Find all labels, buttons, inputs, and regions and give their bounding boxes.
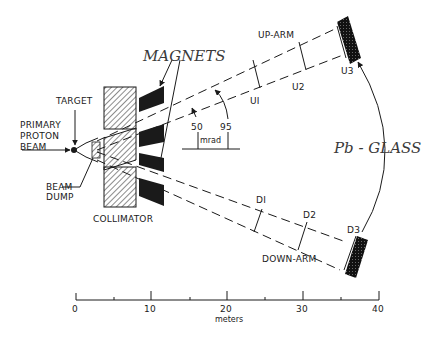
scale-unit-label: meters [215,315,243,324]
chamber-u2-label: U2 [292,82,305,92]
beam-dump-label-2: DUMP [46,192,74,202]
target-label: TARGET [55,96,93,106]
scale-tick-40: 40 [372,304,384,314]
collimator [104,87,136,207]
up-chambers [253,16,361,88]
angle-95-label: 95 [220,122,232,132]
pb-glass-label: Pb - GLASS [333,139,421,157]
chamber-u1-label: UI [250,96,260,106]
beam-dump-label-1: BEAM [46,182,73,192]
scale-tick-20: 20 [220,304,232,314]
spectrometer-diagram: MAGNETS UP-ARM DOWN-ARM TARGET PRIMARY P… [0,0,424,339]
magnets [139,86,164,206]
up-arm-label: UP-ARM [258,30,294,40]
primary-beam-label-3: BEAM [20,142,47,152]
chamber-d1-label: DI [256,195,266,205]
angle-unit-label: mrad [200,136,221,145]
down-arm-label: DOWN-ARM [262,254,316,264]
scale-tick-30: 30 [296,304,308,314]
magnets-label: MAGNETS [142,47,226,65]
primary-beam-label-1: PRIMARY [20,120,61,130]
collimator-label: COLLIMATOR [93,214,153,224]
scale-tick-10: 10 [144,304,156,314]
chamber-d2-label: D2 [303,210,316,220]
chamber-d3-label: D3 [347,225,360,235]
beam-dump [62,142,100,187]
scale-tick-0: 0 [72,304,78,314]
angle-50-label: 50 [191,122,203,132]
magnets-arrow-2 [160,60,180,163]
scale-bar [76,291,379,300]
chamber-u3-label: U3 [341,66,354,76]
primary-beam-label-2: PROTON [20,131,59,141]
